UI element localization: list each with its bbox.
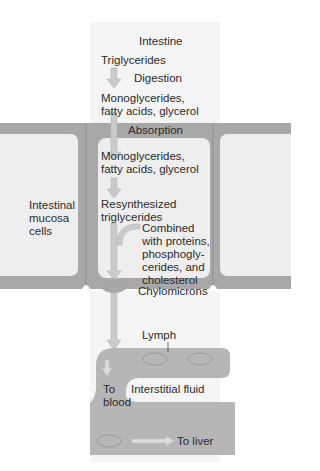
to-liver-label: To liver <box>177 435 213 448</box>
combined-line-1: Combined <box>142 222 194 235</box>
resynthesized-line1: Resynthesized <box>101 198 176 211</box>
mucosa-line-2: mucosa <box>29 212 69 225</box>
absorption-label: Absorption <box>128 124 183 137</box>
monoglycerides-2-line1: Monoglycerides, <box>101 150 185 163</box>
chylomicrons-label: Chylomicrons <box>138 285 208 298</box>
to-blood-line-1: To <box>103 383 115 396</box>
triglycerides-label: Triglycerides <box>101 54 166 67</box>
chylomicron-ellipse <box>101 279 127 293</box>
lymph-ellipse-2 <box>188 353 212 365</box>
mucosa-line-1: Intestinal <box>29 199 75 212</box>
interstitial-fluid-label: Interstitial fluid <box>131 383 205 396</box>
digestion-label: Digestion <box>134 72 182 85</box>
monoglycerides-2-line2: fatty acids, glycerol <box>101 163 199 176</box>
to-blood-line-2: blood <box>103 396 131 409</box>
intestine-title: Intestine <box>139 35 182 48</box>
monoglycerides-1-line1: Monoglycerides, <box>101 92 185 105</box>
combined-line-3: phosphogly- <box>142 248 205 261</box>
lymph-label: Lymph <box>142 329 176 342</box>
combined-line-2: with proteins, <box>142 235 210 248</box>
mucosa-line-3: cells <box>29 225 52 238</box>
monoglycerides-1-line2: fatty acids, glycerol <box>101 105 199 118</box>
blood-ellipse <box>97 435 121 447</box>
combined-line-4: cerides, and <box>142 261 205 274</box>
right-cell <box>220 134 291 276</box>
lymph-ellipse-1 <box>143 353 167 365</box>
